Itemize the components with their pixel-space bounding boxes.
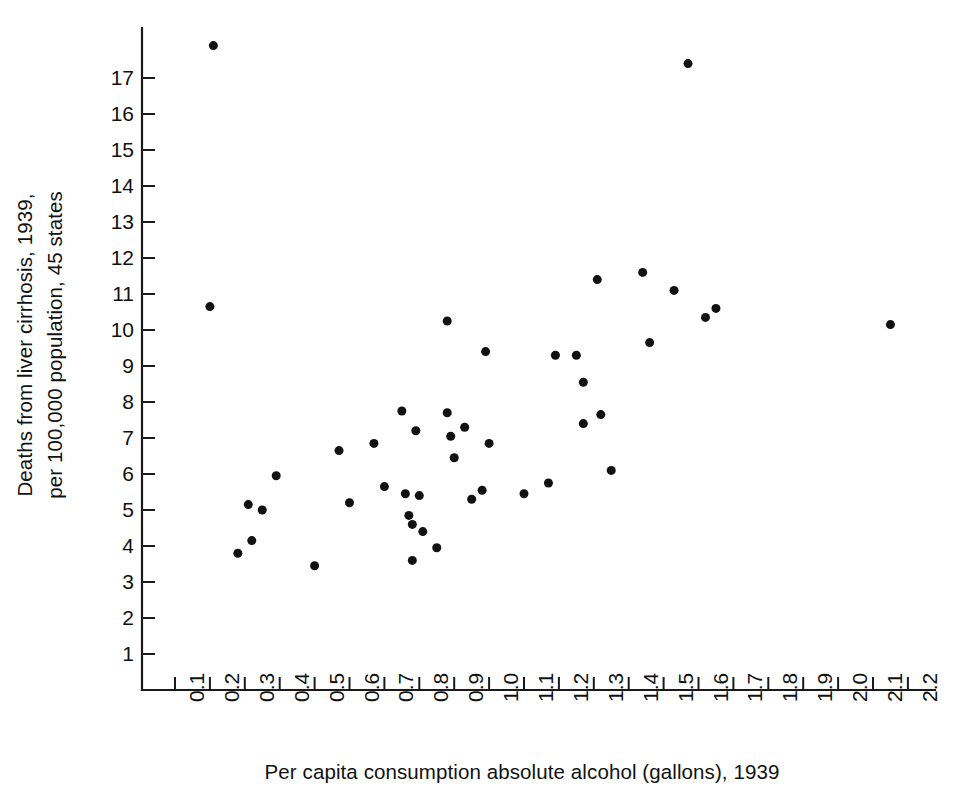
data-point bbox=[544, 479, 553, 488]
data-point bbox=[418, 527, 427, 536]
y-axis-title-line-1: Deaths from liver cirrhosis, 1939, bbox=[10, 180, 40, 510]
data-point bbox=[258, 506, 267, 515]
data-point bbox=[520, 489, 529, 498]
tick-marks bbox=[142, 78, 908, 690]
data-point bbox=[443, 408, 452, 417]
data-point bbox=[478, 486, 487, 495]
data-point bbox=[551, 351, 560, 360]
x-tick-label-1.0: 1.0 bbox=[499, 673, 523, 702]
x-tick-label-1.5: 1.5 bbox=[674, 673, 698, 702]
data-point bbox=[467, 495, 476, 504]
y-tick-label-4: 4 bbox=[94, 534, 134, 558]
x-tick-label-1.2: 1.2 bbox=[569, 673, 593, 702]
x-tick-label-2.0: 2.0 bbox=[848, 673, 872, 702]
x-tick-label-1.7: 1.7 bbox=[743, 673, 767, 702]
data-point bbox=[596, 410, 605, 419]
data-point bbox=[310, 561, 319, 570]
data-point bbox=[408, 556, 417, 565]
data-point bbox=[345, 498, 354, 507]
y-tick-label-13: 13 bbox=[94, 210, 134, 234]
data-point bbox=[272, 471, 281, 480]
data-point bbox=[481, 347, 490, 356]
y-tick-label-14: 14 bbox=[94, 174, 134, 198]
data-points-layer bbox=[205, 41, 895, 570]
data-point bbox=[701, 313, 710, 322]
data-point bbox=[607, 466, 616, 475]
x-tick-label-2.2: 2.2 bbox=[918, 673, 942, 702]
data-point bbox=[397, 407, 406, 416]
x-tick-label-1.8: 1.8 bbox=[778, 673, 802, 702]
y-tick-label-9: 9 bbox=[94, 354, 134, 378]
y-axis-title: Deaths from liver cirrhosis, 1939, per 1… bbox=[10, 180, 90, 510]
y-tick-label-3: 3 bbox=[94, 570, 134, 594]
data-point bbox=[450, 453, 459, 462]
data-point bbox=[432, 543, 441, 552]
axes bbox=[142, 28, 935, 690]
data-point bbox=[247, 536, 256, 545]
y-tick-label-2: 2 bbox=[94, 606, 134, 630]
y-tick-label-17: 17 bbox=[94, 66, 134, 90]
data-point bbox=[443, 317, 452, 326]
data-point bbox=[886, 320, 895, 329]
data-point bbox=[684, 59, 693, 68]
y-tick-label-16: 16 bbox=[94, 102, 134, 126]
x-tick-label-1.3: 1.3 bbox=[604, 673, 628, 702]
x-tick-label-1.9: 1.9 bbox=[813, 673, 837, 702]
data-point bbox=[485, 439, 494, 448]
data-point bbox=[572, 351, 581, 360]
data-point bbox=[579, 419, 588, 428]
x-tick-label-0.8: 0.8 bbox=[429, 673, 453, 702]
data-point bbox=[401, 489, 410, 498]
data-point bbox=[593, 275, 602, 284]
x-tick-label-0.9: 0.9 bbox=[464, 673, 488, 702]
data-point bbox=[244, 500, 253, 509]
x-tick-label-0.5: 0.5 bbox=[325, 673, 349, 702]
y-tick-label-7: 7 bbox=[94, 426, 134, 450]
data-point bbox=[645, 338, 654, 347]
data-point bbox=[205, 302, 214, 311]
x-tick-label-0.7: 0.7 bbox=[394, 673, 418, 702]
x-tick-label-0.6: 0.6 bbox=[360, 673, 384, 702]
data-point bbox=[579, 378, 588, 387]
y-tick-label-6: 6 bbox=[94, 462, 134, 486]
scatter-plot-figure: 1234567891011121314151617 0.10.20.30.40.… bbox=[0, 0, 955, 808]
data-point bbox=[369, 439, 378, 448]
x-tick-label-0.1: 0.1 bbox=[185, 673, 209, 702]
data-point bbox=[638, 268, 647, 277]
y-tick-label-12: 12 bbox=[94, 246, 134, 270]
data-point bbox=[209, 41, 218, 50]
y-tick-label-15: 15 bbox=[94, 138, 134, 162]
data-point bbox=[670, 286, 679, 295]
data-point bbox=[233, 549, 242, 558]
y-tick-label-11: 11 bbox=[94, 282, 134, 306]
y-tick-label-1: 1 bbox=[94, 642, 134, 666]
data-point bbox=[460, 423, 469, 432]
x-tick-label-2.1: 2.1 bbox=[883, 673, 907, 702]
data-point bbox=[380, 482, 389, 491]
y-tick-label-10: 10 bbox=[94, 318, 134, 342]
y-tick-label-8: 8 bbox=[94, 390, 134, 414]
x-tick-label-0.4: 0.4 bbox=[290, 673, 314, 702]
data-point bbox=[408, 520, 417, 529]
x-tick-label-1.6: 1.6 bbox=[709, 673, 733, 702]
y-tick-label-5: 5 bbox=[94, 498, 134, 522]
data-point bbox=[711, 304, 720, 313]
data-point bbox=[335, 446, 344, 455]
x-tick-label-1.4: 1.4 bbox=[639, 673, 663, 702]
x-tick-label-1.1: 1.1 bbox=[534, 673, 558, 702]
x-tick-label-0.3: 0.3 bbox=[255, 673, 279, 702]
data-point bbox=[404, 511, 413, 520]
data-point bbox=[446, 432, 455, 441]
data-point bbox=[415, 491, 424, 500]
x-axis-title: Per capita consumption absolute alcohol … bbox=[142, 760, 902, 784]
x-tick-label-0.2: 0.2 bbox=[220, 673, 244, 702]
data-point bbox=[411, 426, 420, 435]
y-axis-title-line-2: per 100,000 population, 45 states bbox=[40, 180, 70, 510]
